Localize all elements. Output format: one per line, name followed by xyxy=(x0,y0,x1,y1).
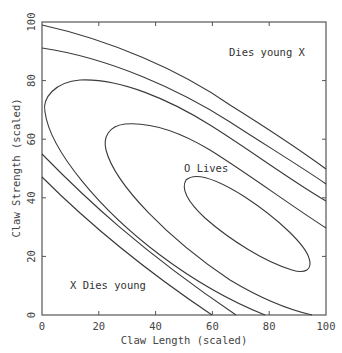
x-tick-label: 0 xyxy=(39,320,45,332)
y-tick-label: 100 xyxy=(25,13,37,32)
annotation-lives: O Lives xyxy=(184,162,228,174)
x-tick-labels: 0 20 40 60 80 100 xyxy=(39,320,336,332)
y-axis-label: Claw Strength (scaled) xyxy=(10,98,22,237)
x-tick-label: 20 xyxy=(92,320,105,332)
y-tick-label: 0 xyxy=(25,312,37,318)
x-tick-label: 100 xyxy=(317,320,336,332)
contour-level-1-lower xyxy=(42,177,212,315)
x-tick-label: 40 xyxy=(149,320,162,332)
x-tick-label: 60 xyxy=(206,320,219,332)
annotation-dies-young-bottom-left: X Dies young xyxy=(70,279,146,291)
contour-level-5 xyxy=(184,177,310,272)
y-tick-label: 60 xyxy=(25,133,37,146)
y-tick-label: 20 xyxy=(25,250,37,263)
annotation-dies-young-top-right: Dies young X xyxy=(229,46,306,58)
y-tick-label: 40 xyxy=(25,191,37,204)
x-axis-label: Claw Length (scaled) xyxy=(121,334,247,346)
contour-chart: 0 20 40 60 80 100 0 20 40 60 80 100 Claw… xyxy=(0,0,342,353)
y-tick-label: 80 xyxy=(25,74,37,87)
x-tick-label: 80 xyxy=(263,320,276,332)
y-tick-labels: 0 20 40 60 80 100 xyxy=(25,13,37,319)
